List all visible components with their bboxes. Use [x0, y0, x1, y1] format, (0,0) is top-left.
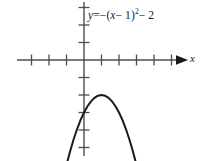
x-axis-arrow-icon: [176, 55, 188, 64]
equation-rhs-suffix: − 2: [139, 9, 154, 21]
parabola-curve: [63, 95, 140, 161]
equation-rhs-prefix: −(: [100, 9, 111, 21]
parabola-figure: y=−(x− 1)2− 2 x: [0, 0, 205, 161]
coordinate-plane: [0, 0, 205, 161]
equation-rhs-minus: − 1): [116, 9, 135, 21]
x-axis-label: x: [190, 52, 195, 64]
equation-equals: =: [93, 9, 100, 21]
equation-annotation: y=−(x− 1)2− 2: [88, 9, 154, 21]
